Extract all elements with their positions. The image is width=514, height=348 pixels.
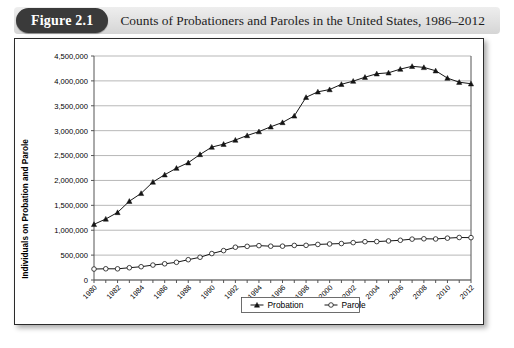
y-tick-label: 1,500,000 xyxy=(54,201,88,210)
data-point xyxy=(292,113,297,118)
data-point xyxy=(197,152,202,157)
data-point xyxy=(127,199,132,204)
y-tick-label: 3,500,000 xyxy=(54,102,88,111)
data-point xyxy=(304,243,309,248)
y-tick-label: 3,000,000 xyxy=(54,127,88,136)
data-point xyxy=(386,239,391,244)
data-point xyxy=(445,76,450,81)
y-tick-label: 4,500,000 xyxy=(54,52,88,61)
x-tick-label: 1984 xyxy=(128,283,146,301)
data-point xyxy=(363,239,368,244)
series-probation xyxy=(91,64,473,227)
data-point xyxy=(221,248,226,253)
x-tick-label: 1988 xyxy=(175,283,193,301)
y-axis-tick-labels: 0500,0001,000,0001,500,0002,000,0002,500… xyxy=(54,52,88,285)
x-tick-label: 1986 xyxy=(152,283,170,301)
data-point xyxy=(433,237,438,242)
data-point xyxy=(91,222,96,227)
data-point xyxy=(445,236,450,241)
data-point xyxy=(422,236,427,241)
data-point xyxy=(151,263,156,268)
data-point xyxy=(268,244,273,249)
data-point xyxy=(410,237,415,242)
data-point xyxy=(327,242,332,247)
data-point xyxy=(280,120,285,125)
x-tick-label: 1992 xyxy=(222,283,240,301)
data-point xyxy=(457,235,462,240)
data-series xyxy=(91,64,473,272)
x-tick-label: 1980 xyxy=(81,283,99,301)
x-tick-label: 2012 xyxy=(458,283,476,301)
data-point xyxy=(351,240,356,245)
data-point xyxy=(280,244,285,249)
figure-header: Figure 2.1 Counts of Probationers and Pa… xyxy=(14,7,500,34)
chart-legend: ProbationParole xyxy=(242,298,367,313)
data-point xyxy=(174,260,179,265)
data-point xyxy=(103,266,108,271)
y-tick-label: 2,500,000 xyxy=(54,151,88,160)
series-parole xyxy=(92,235,474,271)
data-point xyxy=(469,235,474,240)
y-tick-label: 0 xyxy=(84,276,88,285)
data-point xyxy=(292,243,297,248)
y-tick-label: 500,000 xyxy=(61,251,88,260)
data-point xyxy=(198,255,203,260)
data-point xyxy=(174,166,179,171)
data-point xyxy=(186,257,191,262)
x-tick-label: 2004 xyxy=(364,283,382,301)
data-point xyxy=(256,129,261,134)
data-point xyxy=(327,87,332,92)
x-tick-label: 2008 xyxy=(411,283,429,301)
data-point xyxy=(162,172,167,177)
chart-panel: 0500,0001,000,0001,500,0002,000,0002,500… xyxy=(14,38,484,325)
y-tick-label: 1,000,000 xyxy=(54,226,88,235)
data-point xyxy=(257,243,262,248)
data-point xyxy=(303,95,308,100)
data-point xyxy=(210,251,215,256)
data-point xyxy=(398,238,403,243)
legend-label: Parole xyxy=(342,300,367,310)
y-axis-title: Individuals on Probation and Parole xyxy=(21,139,30,279)
data-point xyxy=(316,242,321,247)
y-tick-label: 2,000,000 xyxy=(54,176,88,185)
data-point xyxy=(162,261,167,266)
figure-number-badge: Figure 2.1 xyxy=(16,8,108,33)
data-point xyxy=(139,264,144,269)
x-tick-label: 2010 xyxy=(434,283,452,301)
data-point xyxy=(92,267,97,272)
line-chart: 0500,0001,000,0001,500,0002,000,0002,500… xyxy=(15,39,483,324)
x-tick-label: 2006 xyxy=(387,283,405,301)
data-point xyxy=(339,241,344,246)
legend-label: Probation xyxy=(268,300,304,310)
x-tick-label: 1990 xyxy=(199,283,217,301)
data-point xyxy=(103,216,108,221)
data-point xyxy=(115,267,120,272)
data-point xyxy=(374,239,379,244)
page-title: Counts of Probationers and Paroles in th… xyxy=(120,13,500,29)
data-point xyxy=(127,265,132,270)
data-point xyxy=(233,245,238,250)
data-point xyxy=(245,244,250,249)
y-tick-label: 4,000,000 xyxy=(54,77,88,86)
circle-marker-icon xyxy=(329,303,334,308)
x-tick-label: 1982 xyxy=(104,283,122,301)
